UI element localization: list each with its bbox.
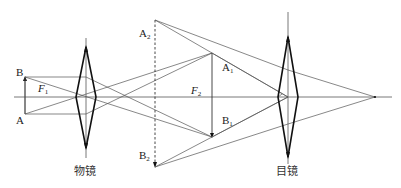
caption-objective: 物镜 bbox=[74, 166, 96, 177]
rays-objective bbox=[25, 53, 212, 137]
objective-lens-top-tip-icon bbox=[84, 45, 88, 52]
label-A2: A2 bbox=[139, 28, 150, 41]
virtual-arrowhead-icon bbox=[153, 162, 157, 168]
label-B: B bbox=[16, 67, 23, 78]
objective-lens-bottom-tip-icon bbox=[84, 143, 88, 150]
label-B1: B1 bbox=[222, 115, 233, 128]
eye-focus-point bbox=[374, 96, 376, 98]
label-F2: F2 bbox=[191, 85, 201, 98]
label-A1: A1 bbox=[222, 62, 233, 75]
caption-eyepiece: 目镜 bbox=[276, 166, 298, 177]
eyepiece-lens-top-tip-icon bbox=[286, 35, 290, 42]
eyepiece-lens-bottom-tip-icon bbox=[286, 152, 290, 159]
rays-eyepiece bbox=[155, 20, 375, 167]
label-B2: B2 bbox=[139, 150, 150, 163]
label-F1: F1 bbox=[38, 83, 48, 96]
label-A: A bbox=[16, 115, 24, 126]
